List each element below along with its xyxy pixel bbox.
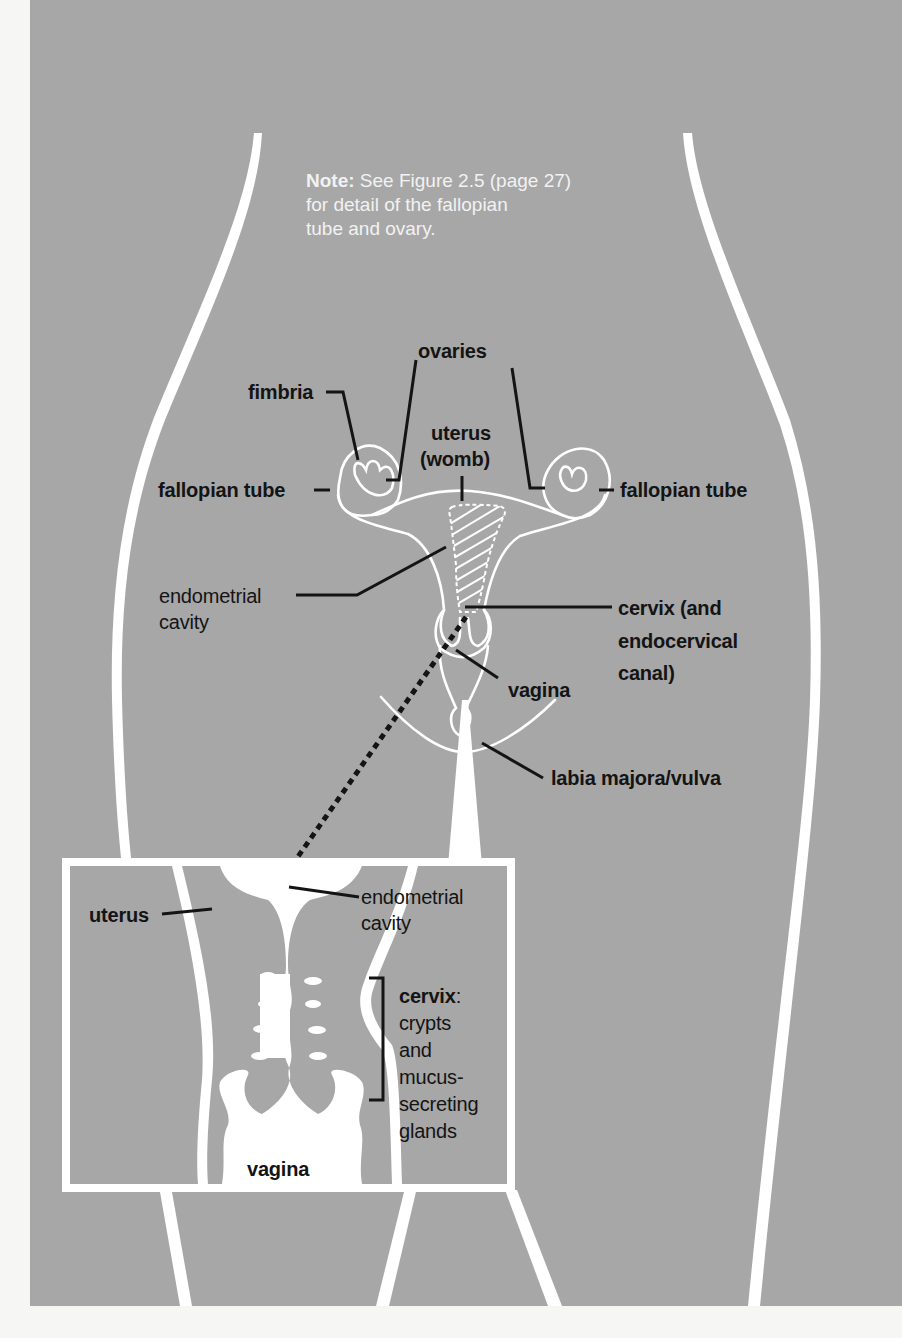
inset-label-endometrial-line2: cavity <box>361 910 411 936</box>
label-ovaries: ovaries <box>418 338 487 364</box>
label-endometrial-cavity-line2: cavity <box>159 609 209 635</box>
endometrial-cavity-hatch <box>440 490 512 614</box>
uterus-outline <box>338 446 610 752</box>
inset-label-cervix-desc-1: crypts <box>399 1010 451 1036</box>
label-fallopian-tube-left: fallopian tube <box>158 477 285 503</box>
body-outline-right <box>683 133 821 1306</box>
label-fallopian-tube-right: fallopian tube <box>620 477 747 503</box>
note-line-3: tube and ovary. <box>306 217 666 241</box>
note-prefix: Note: <box>306 170 355 191</box>
note-line-2: for detail of the fallopian <box>306 193 666 217</box>
inset-label-cervix-desc-3: mucus- <box>399 1064 463 1090</box>
inset-label-cervix-desc-5: glands <box>399 1118 457 1144</box>
inset-label-vagina: vagina <box>247 1156 309 1182</box>
figure-note: Note: See Figure 2.5 (page 27) for detai… <box>306 169 666 241</box>
inset-label-cervix-desc-2: and <box>399 1037 432 1063</box>
inset-label-cervix-colon: : <box>456 985 461 1007</box>
label-uterus-line1: uterus <box>431 420 491 446</box>
inset-pointer-dotted <box>297 617 466 858</box>
crotch-wedge <box>448 700 482 866</box>
inset-label-cervix-bold: cervix <box>399 985 456 1007</box>
label-uterus-line2: (womb) <box>420 446 490 472</box>
label-cervix-line2: endocervical <box>618 628 738 654</box>
inset-label-endometrial-line1: endometrial <box>361 884 463 910</box>
label-endometrial-cavity-line1: endometrial <box>159 583 261 609</box>
inset-label-cervix: cervix: <box>399 983 461 1009</box>
label-cervix-line3: canal) <box>618 660 675 686</box>
inset-label-uterus: uterus <box>89 902 149 928</box>
note-line-1: See Figure 2.5 (page 27) <box>355 170 572 191</box>
label-labia-majora-vulva: labia majora/vulva <box>551 765 721 791</box>
label-cervix-line1: cervix (and <box>618 595 721 621</box>
label-vagina: vagina <box>508 677 570 703</box>
inset-label-cervix-desc-4: secreting <box>399 1091 478 1117</box>
label-fimbria: fimbria <box>248 379 313 405</box>
